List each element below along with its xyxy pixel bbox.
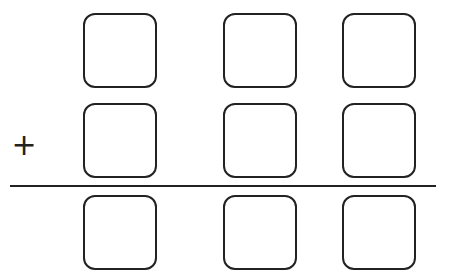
addend-1-digit-2-box[interactable]	[223, 13, 297, 88]
addend-2-digit-1-box[interactable]	[83, 103, 157, 178]
addend-2-digit-2-box[interactable]	[223, 103, 297, 178]
sum-digit-2-box[interactable]	[223, 195, 297, 270]
plus-sign: +	[11, 130, 37, 160]
addend-1-digit-3-box[interactable]	[342, 13, 416, 88]
addend-2-digit-3-box[interactable]	[342, 103, 416, 178]
sum-digit-1-box[interactable]	[83, 195, 157, 270]
sum-line	[10, 185, 436, 187]
sum-digit-3-box[interactable]	[342, 195, 416, 270]
addend-1-digit-1-box[interactable]	[83, 13, 157, 88]
